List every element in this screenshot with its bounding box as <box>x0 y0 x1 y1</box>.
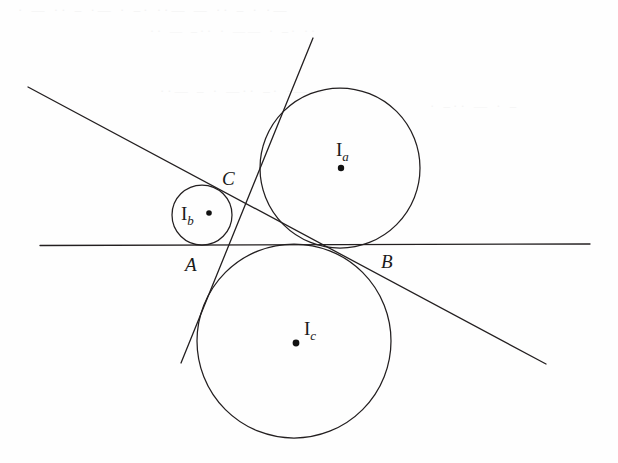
label-Ib: Ib <box>181 203 194 228</box>
label-point-C: C <box>222 168 235 189</box>
line-descending-tangent <box>28 87 546 364</box>
center-dot-Ia <box>338 165 344 171</box>
center-dots <box>206 165 344 347</box>
center-dot-Ic <box>293 340 300 347</box>
label-Ia-subscript: a <box>342 149 349 164</box>
label-Ic: Ic <box>304 318 316 343</box>
label-Ib-subscript: b <box>187 213 194 228</box>
label-point-A: A <box>183 254 197 275</box>
label-Ia: Ia <box>336 139 349 164</box>
geometry-diagram: Ia Ib Ic A B C <box>0 0 618 463</box>
label-Ic-subscript: c <box>310 328 316 343</box>
circle-labels: Ia Ib Ic <box>181 139 349 343</box>
center-dot-Ib <box>206 210 212 216</box>
tangent-lines <box>28 38 590 364</box>
point-labels: A B C <box>183 168 393 275</box>
label-point-B: B <box>381 251 393 272</box>
figure-canvas: · — ·· – ·— · –· ··— — ·· – · ·— ·· — –·… <box>0 0 618 463</box>
